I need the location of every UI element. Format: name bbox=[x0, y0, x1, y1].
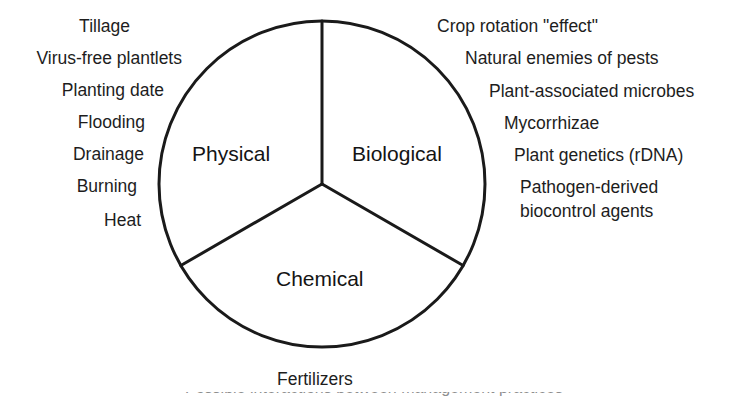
right-label-pathogen-derived: Pathogen-derived bbox=[520, 179, 658, 197]
left-label-tillage: Tillage bbox=[79, 18, 130, 36]
left-label-heat: Heat bbox=[104, 212, 141, 230]
right-label-plant-associated-microbes: Plant-associated microbes bbox=[489, 83, 694, 101]
sector-label-physical: Physical bbox=[192, 143, 270, 164]
clipped-caption-remnant: Possible interactions between management… bbox=[0, 392, 748, 403]
divider-lower-right bbox=[181, 184, 322, 266]
divider-lower-left bbox=[322, 184, 463, 266]
right-label-crop-rotation-effect: Crop rotation "effect" bbox=[437, 18, 598, 36]
right-label-mycorrhizae: Mycorrhizae bbox=[504, 115, 599, 133]
bottom-label-fertilizers: Fertilizers bbox=[277, 371, 353, 389]
sector-label-biological: Biological bbox=[352, 143, 442, 164]
sector-label-chemical: Chemical bbox=[276, 268, 364, 289]
right-label-biocontrol-agents: biocontrol agents bbox=[520, 203, 653, 221]
left-label-planting-date: Planting date bbox=[62, 82, 164, 100]
right-label-natural-enemies-of-pests: Natural enemies of pests bbox=[465, 50, 659, 68]
left-label-burning: Burning bbox=[77, 178, 137, 196]
figure-canvas: Physical Biological Chemical Tillage Vir… bbox=[0, 0, 748, 403]
right-label-plant-genetics-rdna: Plant genetics (rDNA) bbox=[514, 147, 683, 165]
left-label-flooding: Flooding bbox=[78, 114, 145, 132]
clipped-caption-text: Possible interactions between management… bbox=[0, 392, 748, 397]
left-label-virus-free-plantlets: Virus-free plantlets bbox=[36, 50, 182, 68]
left-label-drainage: Drainage bbox=[73, 146, 144, 164]
